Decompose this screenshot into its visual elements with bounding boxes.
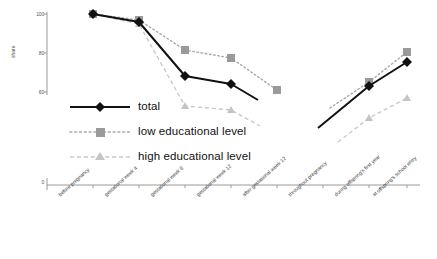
legend-marker-total (95, 102, 105, 112)
y-axis-title: share (10, 45, 16, 58)
legend-marker-high (95, 152, 105, 160)
legend-glyphs (70, 102, 130, 160)
marker-total-3 (226, 79, 236, 89)
marker-high-7 (403, 94, 411, 101)
chart-container: 100 80 60 0 share before pregnancy gesta… (0, 0, 437, 259)
legend-marker-low (96, 128, 105, 137)
y-tick-label-100: 100 (26, 11, 44, 17)
legend-label-total: total (138, 100, 160, 112)
marker-low-7 (403, 48, 411, 56)
marker-high-2 (181, 102, 189, 109)
marker-total-7 (402, 57, 412, 67)
marker-low-4 (273, 86, 281, 94)
series-high-educational-level (89, 10, 411, 142)
y-tick-label-60: 60 (26, 89, 44, 95)
legend-label-low-educational-level: low educational level (138, 125, 246, 137)
series-high-line-right (338, 98, 407, 142)
legend-label-high-educational-level: high educational level (138, 150, 251, 162)
marker-low-3 (227, 54, 235, 62)
series-total-line-right (318, 62, 407, 128)
y-axis-zero-label: 0 (26, 179, 44, 185)
marker-low-2 (181, 46, 189, 54)
marker-high-6 (365, 114, 373, 121)
y-tick-label-80: 80 (26, 50, 44, 56)
series-high-line-left (93, 14, 260, 126)
